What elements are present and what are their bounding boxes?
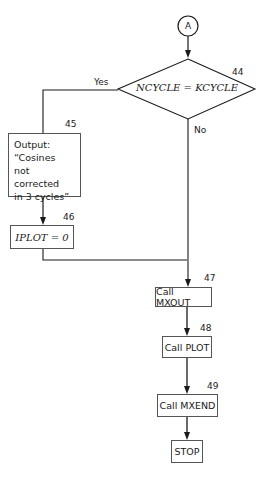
stop-terminal: STOP	[171, 440, 203, 463]
stop-text: STOP	[174, 446, 199, 457]
call-mxend-box: Call MXEND	[157, 394, 218, 417]
assign-box-number: 46	[63, 212, 74, 222]
connector-a: A	[178, 16, 198, 36]
no-label: No	[194, 125, 206, 135]
call-plot-text: Call PLOT	[165, 342, 210, 353]
assign-text: IPLOT = 0	[15, 232, 68, 243]
output-box-number: 45	[65, 119, 76, 129]
step-48-number: 48	[200, 323, 211, 333]
assign-box: IPLOT = 0	[10, 225, 74, 249]
connector-label: A	[185, 21, 191, 31]
step-49-number: 49	[207, 381, 218, 391]
output-box: Output: “Cosines not corrected in 3 cycl…	[8, 133, 81, 197]
call-mxend-text: Call MXEND	[160, 400, 216, 411]
decision-condition: NCYCLE = KCYCLE	[120, 82, 254, 93]
step-47-number: 47	[204, 273, 215, 283]
call-mxout-text: Call MXOUT	[156, 286, 211, 308]
decision-number: 44	[232, 67, 243, 77]
yes-label: Yes	[94, 77, 109, 87]
call-mxout-box: Call MXOUT	[155, 287, 212, 307]
call-plot-box: Call PLOT	[162, 336, 212, 358]
